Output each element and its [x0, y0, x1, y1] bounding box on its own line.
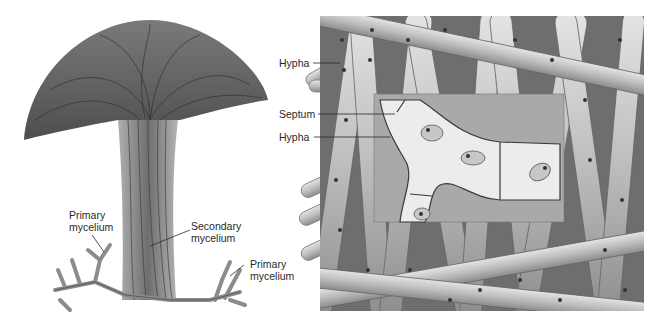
hyphae-mass [297, 3, 660, 324]
illustration [0, 0, 668, 331]
label-primary-mycelium-right: Primary mycelium [250, 258, 294, 282]
mushroom [24, 20, 268, 310]
label-hypha-bottom: Hypha [279, 131, 309, 143]
label-line: Primary [250, 258, 294, 270]
septate-hypha-inset [374, 94, 564, 222]
label-secondary-mycelium: Secondary mycelium [191, 220, 241, 244]
label-line: mycelium [250, 270, 294, 282]
label-hypha-top: Hypha [279, 57, 309, 69]
label-line: mycelium [69, 221, 113, 233]
label-primary-mycelium-left: Primary mycelium [69, 209, 113, 233]
label-line: mycelium [191, 232, 241, 244]
figure: Primary mycelium Secondary mycelium Prim… [0, 0, 668, 331]
label-line: Secondary [191, 220, 241, 232]
label-line: Primary [69, 209, 113, 221]
label-septum: Septum [279, 108, 315, 120]
